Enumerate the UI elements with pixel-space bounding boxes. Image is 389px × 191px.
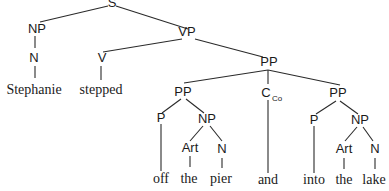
node-p-2: P: [310, 112, 319, 127]
node-pp-1: PP: [174, 84, 191, 99]
node-conj: C: [261, 85, 270, 100]
node-np-subject: NP: [28, 21, 46, 36]
syntax-tree-diagram: S NP N VP V PP PP P NP Art N C Co PP P N…: [0, 0, 389, 191]
node-np-1: NP: [198, 111, 216, 126]
word-the-2: the: [335, 172, 352, 187]
node-vp: VP: [178, 24, 195, 39]
word-pier: pier: [210, 171, 232, 186]
word-into: into: [303, 172, 325, 187]
node-pp-top: PP: [260, 54, 277, 69]
node-n-1: N: [217, 141, 226, 156]
node-s: S: [108, 0, 117, 10]
word-lake: lake: [362, 172, 385, 187]
tree-node-labels: S NP N VP V PP PP P NP Art N C Co PP P N…: [28, 0, 380, 156]
node-conj-subscript: Co: [272, 94, 283, 103]
word-and: and: [258, 172, 278, 187]
word-stepped: stepped: [80, 82, 123, 97]
node-pp-2: PP: [329, 85, 346, 100]
word-off: off: [153, 171, 169, 186]
tree-svg: S NP N VP V PP PP P NP Art N C Co PP P N…: [0, 0, 389, 191]
word-stephanie: Stephanie: [6, 82, 61, 97]
node-v: V: [98, 50, 107, 65]
node-n-2: N: [370, 141, 379, 156]
node-art-1: Art: [182, 140, 199, 155]
node-art-2: Art: [336, 141, 353, 156]
node-p-1: P: [157, 110, 166, 125]
node-n-subject: N: [29, 50, 38, 65]
node-np-2: NP: [351, 112, 369, 127]
word-the-1: the: [180, 171, 197, 186]
